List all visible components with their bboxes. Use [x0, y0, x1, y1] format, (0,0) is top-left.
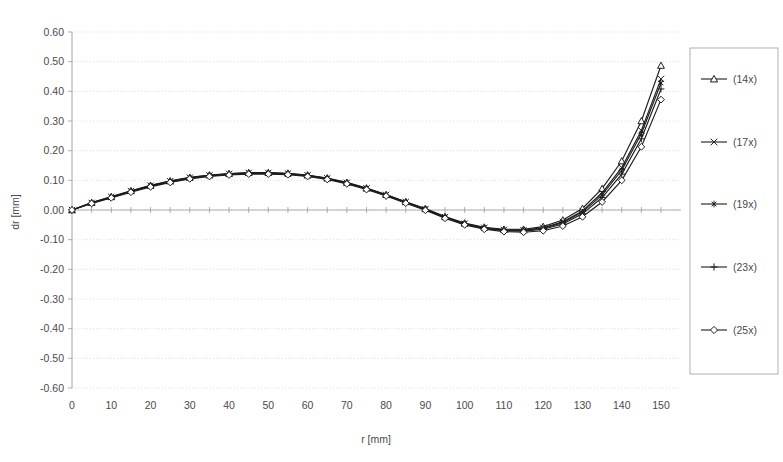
x-tick-label: 120	[534, 399, 552, 411]
y-tick-label: -0.50	[40, 352, 64, 364]
legend-label: (25x)	[733, 324, 757, 336]
y-tick-label: 0.30	[44, 115, 65, 127]
x-tick-label: 100	[456, 399, 474, 411]
y-tick-labels: 0.600.500.400.300.200.100.00-0.10-0.20-0…	[40, 26, 64, 394]
line-chart: 0.600.500.400.300.200.100.00-0.10-0.20-0…	[0, 0, 783, 462]
x-tick-label: 90	[420, 399, 432, 411]
x-tick-label: 140	[613, 399, 631, 411]
x-tick-label: 110	[496, 399, 513, 411]
y-tick-label: -0.60	[40, 382, 64, 394]
series-14x	[69, 62, 665, 232]
legend-label: (14x)	[733, 73, 757, 85]
x-axis-title: r [mm]	[361, 433, 391, 445]
data-marker-diamond	[186, 175, 193, 182]
y-tick-label: 0.60	[44, 26, 65, 38]
y-tick-label: -0.20	[40, 263, 64, 275]
x-tick-label: 50	[262, 399, 274, 411]
series-line	[72, 66, 661, 230]
data-marker-diamond	[638, 143, 645, 150]
x-tick-label: 20	[145, 399, 157, 411]
data-marker-diamond	[285, 171, 292, 178]
data-marker-diamond	[226, 172, 233, 179]
chart-figure: 0.600.500.400.300.200.100.00-0.10-0.20-0…	[0, 0, 783, 462]
data-marker-diamond	[206, 173, 213, 180]
y-tick-label: 0.50	[44, 55, 65, 67]
x-tick-label: 80	[380, 399, 392, 411]
x-tick-label: 70	[341, 399, 353, 411]
data-marker-diamond	[245, 171, 252, 178]
legend-label: (19x)	[733, 198, 757, 210]
x-tick-label: 40	[223, 399, 235, 411]
y-tick-label: -0.30	[40, 293, 64, 305]
legend-label: (17x)	[733, 136, 757, 148]
y-tick-label: 0.10	[44, 174, 65, 186]
y-tick-label: 0.20	[44, 144, 65, 156]
x-tick-label: 150	[652, 399, 670, 411]
y-tick-label: 0.40	[44, 85, 65, 97]
data-marker-diamond	[658, 96, 665, 103]
x-tick-label: 0	[69, 399, 75, 411]
y-tick-label: 0.00	[44, 204, 65, 216]
x-tick-label: 130	[574, 399, 592, 411]
x-tick-label: 60	[302, 399, 314, 411]
x-tick-label: 30	[184, 399, 196, 411]
x-tick-label: 10	[105, 399, 117, 411]
x-tick-labels: 0102030405060708090100110120130140150	[69, 399, 670, 411]
y-tick-label: -0.10	[40, 233, 64, 245]
y-axis-title: dr [mm]	[9, 194, 21, 230]
axes	[68, 32, 681, 388]
y-tick-label: -0.40	[40, 322, 64, 334]
data-marker-triangle	[658, 62, 665, 68]
data-marker-diamond	[265, 171, 272, 178]
data-marker-diamond	[304, 173, 311, 180]
legend-label: (23x)	[733, 261, 757, 273]
